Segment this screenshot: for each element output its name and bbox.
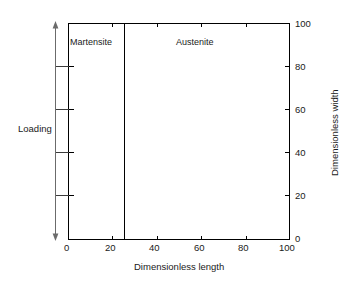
x-tick-label-20: 20 bbox=[105, 243, 116, 253]
y-tick-label-100: 100 bbox=[295, 19, 311, 29]
loading-label: Loading bbox=[18, 124, 52, 134]
loading-arrow bbox=[53, 21, 59, 241]
x-axis-top-ticks bbox=[113, 24, 246, 28]
y-axis-right-title: Dimensionless width bbox=[330, 89, 340, 176]
x-tick-label-40: 40 bbox=[149, 243, 160, 253]
x-axis-title: Dimensionless length bbox=[134, 262, 224, 272]
y-tick-label-80: 80 bbox=[295, 62, 306, 72]
y-axis-left-ticks bbox=[69, 67, 74, 196]
x-tick-label-0: 0 bbox=[64, 243, 69, 253]
region-label-martensite: Martensite bbox=[70, 38, 112, 47]
x-tick-label-60: 60 bbox=[194, 243, 205, 253]
x-tick-label-80: 80 bbox=[238, 243, 249, 253]
x-tick-label-100: 100 bbox=[279, 243, 295, 253]
figure-container: 0 20 40 60 80 100 100 80 60 40 20 0 Dime… bbox=[0, 0, 342, 288]
plot-frame bbox=[69, 24, 290, 240]
y-tick-label-60: 60 bbox=[295, 105, 306, 115]
y-tick-label-20: 20 bbox=[295, 191, 306, 201]
x-axis-ticks bbox=[69, 232, 290, 239]
y-axis-right-ticks bbox=[283, 24, 290, 240]
region-label-austenite: Austenite bbox=[176, 38, 214, 47]
y-tick-label-0: 0 bbox=[295, 234, 300, 244]
loading-arrow-ticks bbox=[56, 67, 69, 196]
y-tick-label-40: 40 bbox=[295, 148, 306, 158]
